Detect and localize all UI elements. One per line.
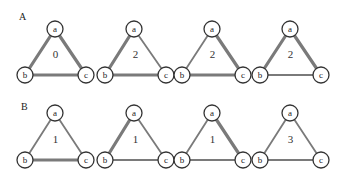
triangle-count-label: 2 (210, 48, 216, 60)
node-label-b: b (180, 70, 185, 80)
triangle-count-label: 2 (288, 48, 294, 60)
triangle-diagram: Aabc0abc2abc2abc2Babc1abc1abc1abc3 (0, 0, 344, 177)
triangle-count-label: 3 (288, 133, 294, 145)
node-label-c: c (241, 155, 245, 165)
triangle-count-label: 1 (133, 133, 139, 145)
node-label-b: b (258, 155, 263, 165)
triangle-graph: abc3 (252, 105, 329, 168)
node-label-c: c (84, 155, 88, 165)
triangle-graph: abc1 (174, 105, 251, 168)
node-label-c: c (241, 70, 245, 80)
triangle-graph: abc2 (97, 21, 174, 83)
node-label-c: c (319, 155, 323, 165)
triangle-graph: abc2 (174, 21, 251, 83)
triangle-graph: abc0 (17, 21, 94, 83)
row-label: B (21, 101, 28, 112)
node-label-b: b (103, 155, 108, 165)
node-label-c: c (164, 155, 168, 165)
node-label-c: c (84, 70, 88, 80)
node-label-a: a (132, 108, 136, 118)
node-label-a: a (210, 24, 214, 34)
triangle-graph: abc1 (17, 105, 94, 168)
node-label-b: b (103, 70, 108, 80)
node-label-a: a (288, 24, 292, 34)
node-label-b: b (180, 155, 185, 165)
triangle-count-label: 1 (53, 133, 59, 145)
triangle-graph: abc2 (252, 21, 329, 83)
node-label-b: b (23, 70, 28, 80)
triangle-graph: abc1 (97, 105, 174, 168)
node-label-c: c (164, 70, 168, 80)
row-label: A (19, 11, 27, 22)
node-label-a: a (210, 108, 214, 118)
node-label-c: c (319, 70, 323, 80)
node-label-a: a (53, 108, 57, 118)
triangle-count-label: 1 (210, 133, 216, 145)
triangle-count-label: 0 (53, 48, 59, 60)
node-label-b: b (258, 70, 263, 80)
node-label-a: a (132, 24, 136, 34)
node-label-a: a (53, 24, 57, 34)
node-label-b: b (23, 155, 28, 165)
triangle-count-label: 2 (133, 48, 139, 60)
node-label-a: a (288, 108, 292, 118)
